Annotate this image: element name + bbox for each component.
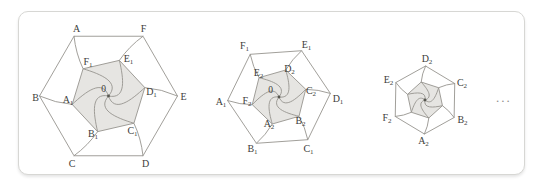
continuation-ellipsis: ... [496,90,512,106]
figure-card [18,11,525,175]
